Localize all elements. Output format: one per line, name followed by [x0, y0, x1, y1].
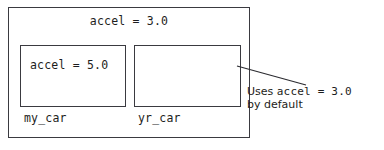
instance-name-my-car: my_car [24, 111, 67, 125]
class-attribute-label: accel = 3.0 [8, 14, 250, 28]
instance-name-yr-car: yr_car [138, 111, 181, 125]
annotation-suffix: by default [247, 98, 303, 111]
instance-box-yr-car [134, 45, 241, 107]
annotation-callout: Uses accel = 3.0 by default [247, 85, 381, 111]
diagram-canvas: accel = 3.0 accel = 5.0 my_car yr_car Us… [0, 0, 384, 150]
instance-box-my-car: accel = 5.0 [20, 45, 126, 107]
annotation-line-1: Uses accel = 3.0 [247, 85, 381, 98]
annotation-prefix: Uses [247, 85, 277, 98]
instance-attribute-my-car: accel = 5.0 [30, 58, 108, 72]
annotation-line-2: by default [247, 98, 381, 111]
annotation-code: accel = 3.0 [277, 85, 352, 98]
